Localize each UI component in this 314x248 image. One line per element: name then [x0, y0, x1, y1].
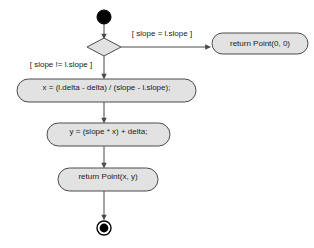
action-compute-y[interactable]: y = (slope * x) + delta;: [47, 123, 170, 146]
edge-decision-to-return-zero: [121, 44, 211, 49]
diagram-svg: [ slope = l.slope ] [ slope != l.slope ]…: [0, 0, 314, 248]
action-compute-y-label: y = (slope * x) + delta;: [70, 127, 148, 136]
action-return-point-zero[interactable]: return Point(0, 0): [212, 33, 308, 54]
final-node: [97, 221, 111, 235]
guard-slope-equal-label: [ slope = l.slope ]: [132, 29, 192, 38]
action-compute-x[interactable]: x = (l.delta - delta) / (slope - l.slope…: [17, 79, 196, 102]
guard-slope-not-equal-label: [ slope != l.slope ]: [30, 60, 92, 69]
action-return-point-zero-label: return Point(0, 0): [230, 39, 290, 48]
edge-compute-x-to-compute-y: [101, 102, 106, 124]
edge-return-xy-to-final: [101, 191, 106, 221]
edge-initial-to-decision: [101, 24, 106, 40]
action-return-point-xy-label: return Point(x, y): [78, 172, 137, 181]
action-compute-x-label: x = (l.delta - delta) / (slope - l.slope…: [43, 83, 171, 92]
decision-diamond[interactable]: [87, 38, 121, 56]
edge-compute-y-to-return-xy: [101, 146, 106, 169]
initial-node: [97, 10, 111, 24]
action-return-point-xy[interactable]: return Point(x, y): [58, 168, 158, 191]
activity-diagram-canvas: [ slope = l.slope ] [ slope != l.slope ]…: [0, 0, 314, 248]
edge-decision-to-compute-x: [101, 56, 106, 80]
